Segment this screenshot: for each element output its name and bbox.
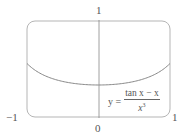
function-label: y = tan x − x x3: [108, 88, 160, 114]
formula-lhs: y =: [108, 96, 121, 107]
formula-denominator: x3: [138, 100, 145, 114]
formula-numerator: tan x − x: [124, 88, 160, 100]
x-tick-0: 0: [95, 123, 101, 134]
function-curve: [27, 63, 170, 85]
plot-area: [0, 0, 185, 136]
x-tick-1: 1: [172, 112, 178, 123]
y-tick-1: 1: [96, 5, 102, 16]
formula-fraction: tan x − x x3: [124, 88, 160, 114]
x-tick-neg1: −1: [6, 112, 18, 123]
